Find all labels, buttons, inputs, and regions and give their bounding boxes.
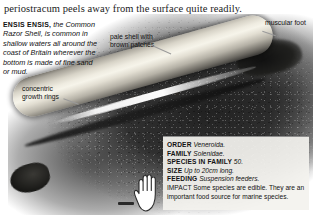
scale-bar bbox=[118, 202, 134, 205]
caption-body: the Common Razor Shell, is common in sha… bbox=[3, 20, 97, 76]
fact-value: Up to 20cm long. bbox=[184, 167, 234, 174]
fact-value: Veneroida. bbox=[193, 141, 225, 148]
fact-key: FAMILY bbox=[167, 150, 191, 157]
fact-row: SIZE Up to 20cm long. bbox=[167, 167, 305, 176]
fact-key: SIZE bbox=[167, 167, 182, 174]
fact-row: FAMILY Solenidae. bbox=[167, 150, 305, 159]
species-name-smallcaps: ENSIS ENSIS, bbox=[3, 21, 51, 28]
fact-value: Solenidae. bbox=[193, 150, 224, 157]
fact-key: ORDER bbox=[167, 141, 192, 148]
fact-value: 50. bbox=[234, 158, 243, 165]
species-caption: ENSIS ENSIS, the Common Razor Shell, is … bbox=[3, 20, 99, 76]
species-fact-box: ORDER Veneroida. FAMILY Solenidae. SPECI… bbox=[163, 136, 309, 210]
annotation-muscular-foot: muscular foot bbox=[265, 19, 309, 27]
annotation-pale-shell: pale shell with brown patches bbox=[110, 33, 172, 49]
fact-row: ORDER Veneroida. bbox=[167, 141, 305, 150]
fact-row: SPECIES IN FAMILY 50. bbox=[167, 158, 305, 167]
fact-key: FEEDING bbox=[167, 175, 197, 182]
fact-key: IMPACT bbox=[167, 184, 191, 191]
fact-row: FEEDING Suspension feeders. bbox=[167, 175, 305, 184]
fact-key: SPECIES IN FAMILY bbox=[167, 158, 232, 165]
fact-value: Suspension feeders. bbox=[199, 175, 259, 182]
annotation-concentric-growth-rings: concentric growth rings bbox=[22, 85, 68, 101]
fact-row-impact: IMPACT Some species are edible. They are… bbox=[167, 184, 305, 201]
hand-scale-icon bbox=[132, 173, 162, 213]
